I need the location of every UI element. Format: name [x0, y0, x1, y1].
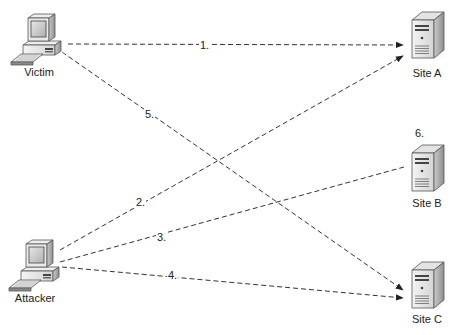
site-c-label: Site C [405, 313, 449, 325]
site-b-server-icon [412, 145, 448, 193]
site-b-label: Site B [405, 197, 449, 209]
edge-label-5: 5. [144, 108, 155, 120]
edge-label-4: 4. [167, 269, 178, 281]
edge-label-3: 3. [156, 231, 167, 243]
edge-5-victim-to-site-c [62, 52, 403, 290]
edge-2-attacker-to-site-a [60, 56, 403, 250]
site-a-server-icon [412, 12, 448, 60]
edge-1-victim-to-site-a [68, 44, 403, 45]
attacker-label: Attacker [6, 292, 64, 304]
edge-label-2: 2. [135, 196, 146, 208]
annotation-label-6: 6. [414, 127, 425, 139]
edge-3-attacker-to-site-b [60, 167, 404, 262]
site-a-label: Site A [405, 67, 449, 79]
site-c-server-icon [412, 262, 448, 310]
edge-4-attacker-to-site-c [62, 267, 403, 298]
diagram-canvas [0, 0, 461, 335]
victim-computer-icon [11, 14, 67, 65]
edge-label-1: 1. [199, 39, 210, 51]
victim-label: Victim [14, 66, 64, 78]
attacker-computer-icon [9, 240, 65, 291]
